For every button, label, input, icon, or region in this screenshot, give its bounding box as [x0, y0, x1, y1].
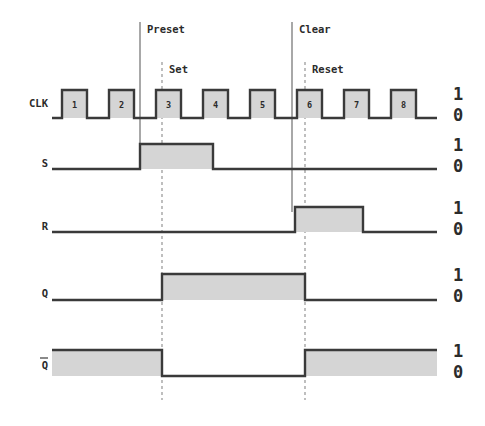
r-high-fill	[295, 207, 363, 232]
reset-marker-label: Reset	[312, 63, 344, 75]
clk-pulse-number-5: 5	[260, 100, 265, 110]
s-level-high: 1	[453, 135, 463, 155]
qbar-waveform-row: Q 1 0	[40, 341, 463, 382]
preset-marker-label: Preset	[147, 23, 185, 35]
signal-label-q: Q	[42, 287, 48, 299]
clk-pulse-number-8: 8	[401, 100, 406, 110]
clk-pulse-fills	[62, 90, 416, 118]
q-high-fill	[162, 274, 305, 300]
q-waveform-row: Q 1 0	[42, 265, 463, 306]
set-marker-label: Set	[169, 63, 188, 75]
marker-lines-group	[140, 22, 305, 400]
r-level-low: 0	[453, 219, 463, 239]
clk-pulse-number-2: 2	[119, 100, 124, 110]
clk-pulse-number-3: 3	[166, 100, 171, 110]
clk-pulse-number-6: 6	[307, 100, 312, 110]
clk-waveform-row: 1 2 3 4 5 6 7 8 CLK 1 0	[29, 84, 463, 125]
clk-pulse-numbers: 1 2 3 4 5 6 7 8	[72, 100, 406, 110]
qbar-level-low: 0	[453, 362, 463, 382]
timing-diagram-canvas: Preset Set Clear Reset 1 2	[0, 0, 485, 426]
qbar-high-fill-right	[305, 350, 437, 376]
signal-label-qbar: Q	[42, 359, 48, 371]
clk-pulse-number-4: 4	[213, 100, 218, 110]
q-level-high: 1	[453, 265, 463, 285]
clk-pulse-number-7: 7	[354, 100, 359, 110]
timing-diagram-figure: Preset Set Clear Reset 1 2	[0, 0, 485, 426]
s-waveform-path	[52, 144, 437, 169]
s-waveform-row: S 1 0	[42, 135, 463, 176]
qbar-high-fills	[52, 350, 437, 376]
clk-waveform-path	[52, 90, 437, 118]
r-waveform-path	[52, 207, 437, 232]
clk-pulse-number-1: 1	[72, 100, 77, 110]
signal-label-r: R	[42, 220, 49, 232]
signal-label-clk: CLK	[29, 97, 49, 109]
qbar-high-fill-left	[52, 350, 162, 376]
s-level-low: 0	[453, 156, 463, 176]
clear-marker-label: Clear	[299, 23, 331, 35]
qbar-level-high: 1	[453, 341, 463, 361]
s-high-fill	[140, 144, 213, 169]
marker-labels-group: Preset Set Clear Reset	[147, 23, 344, 75]
clk-level-low: 0	[453, 105, 463, 125]
signal-label-s: S	[42, 157, 48, 169]
r-waveform-row: R 1 0	[42, 198, 463, 239]
r-level-high: 1	[453, 198, 463, 218]
q-level-low: 0	[453, 286, 463, 306]
clk-level-high: 1	[453, 84, 463, 104]
